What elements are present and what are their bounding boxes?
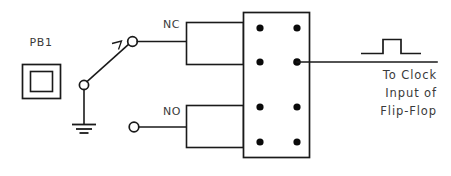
switch-arm-blade <box>87 45 129 82</box>
ground-symbol <box>72 125 96 134</box>
switch-arm[interactable] <box>87 41 129 82</box>
terminal-dot-r3c2 <box>293 103 300 110</box>
annotation-line-2: Input of <box>385 86 437 100</box>
no-contact-label: NO <box>163 105 181 118</box>
annotation-line-3: Flip-Flop <box>380 104 437 118</box>
no-contact-block <box>187 106 244 148</box>
clock-pulse-waveform-icon <box>361 40 421 54</box>
annotation-line-1: To Clock <box>382 68 437 82</box>
push-button-label: PB1 <box>30 36 53 49</box>
nc-contact-block <box>187 23 244 65</box>
terminal-dot-r4c1 <box>256 138 263 145</box>
terminal-dot-r4c2 <box>293 138 300 145</box>
push-button-symbol[interactable] <box>23 65 61 99</box>
no-terminal-circle[interactable] <box>129 122 139 132</box>
clock-destination-annotation: To Clock Input of Flip-Flop <box>380 68 437 118</box>
terminal-block-body <box>244 13 310 158</box>
common-pole-terminal <box>79 80 88 124</box>
schematic-drawing: PB1 NC NO <box>0 0 451 176</box>
nc-terminal-circle[interactable] <box>128 37 138 47</box>
terminal-dot-r2c1 <box>256 58 263 65</box>
switch-actuation-arrow-icon <box>112 41 122 50</box>
circuit-diagram-canvas: PB1 NC NO <box>0 0 451 176</box>
terminal-dot-r1c2 <box>293 24 300 31</box>
push-button-plunger <box>31 72 53 92</box>
terminal-dot-r1c1 <box>256 24 263 31</box>
nc-contact-label: NC <box>163 18 180 31</box>
terminal-dot-r3c1 <box>256 103 263 110</box>
